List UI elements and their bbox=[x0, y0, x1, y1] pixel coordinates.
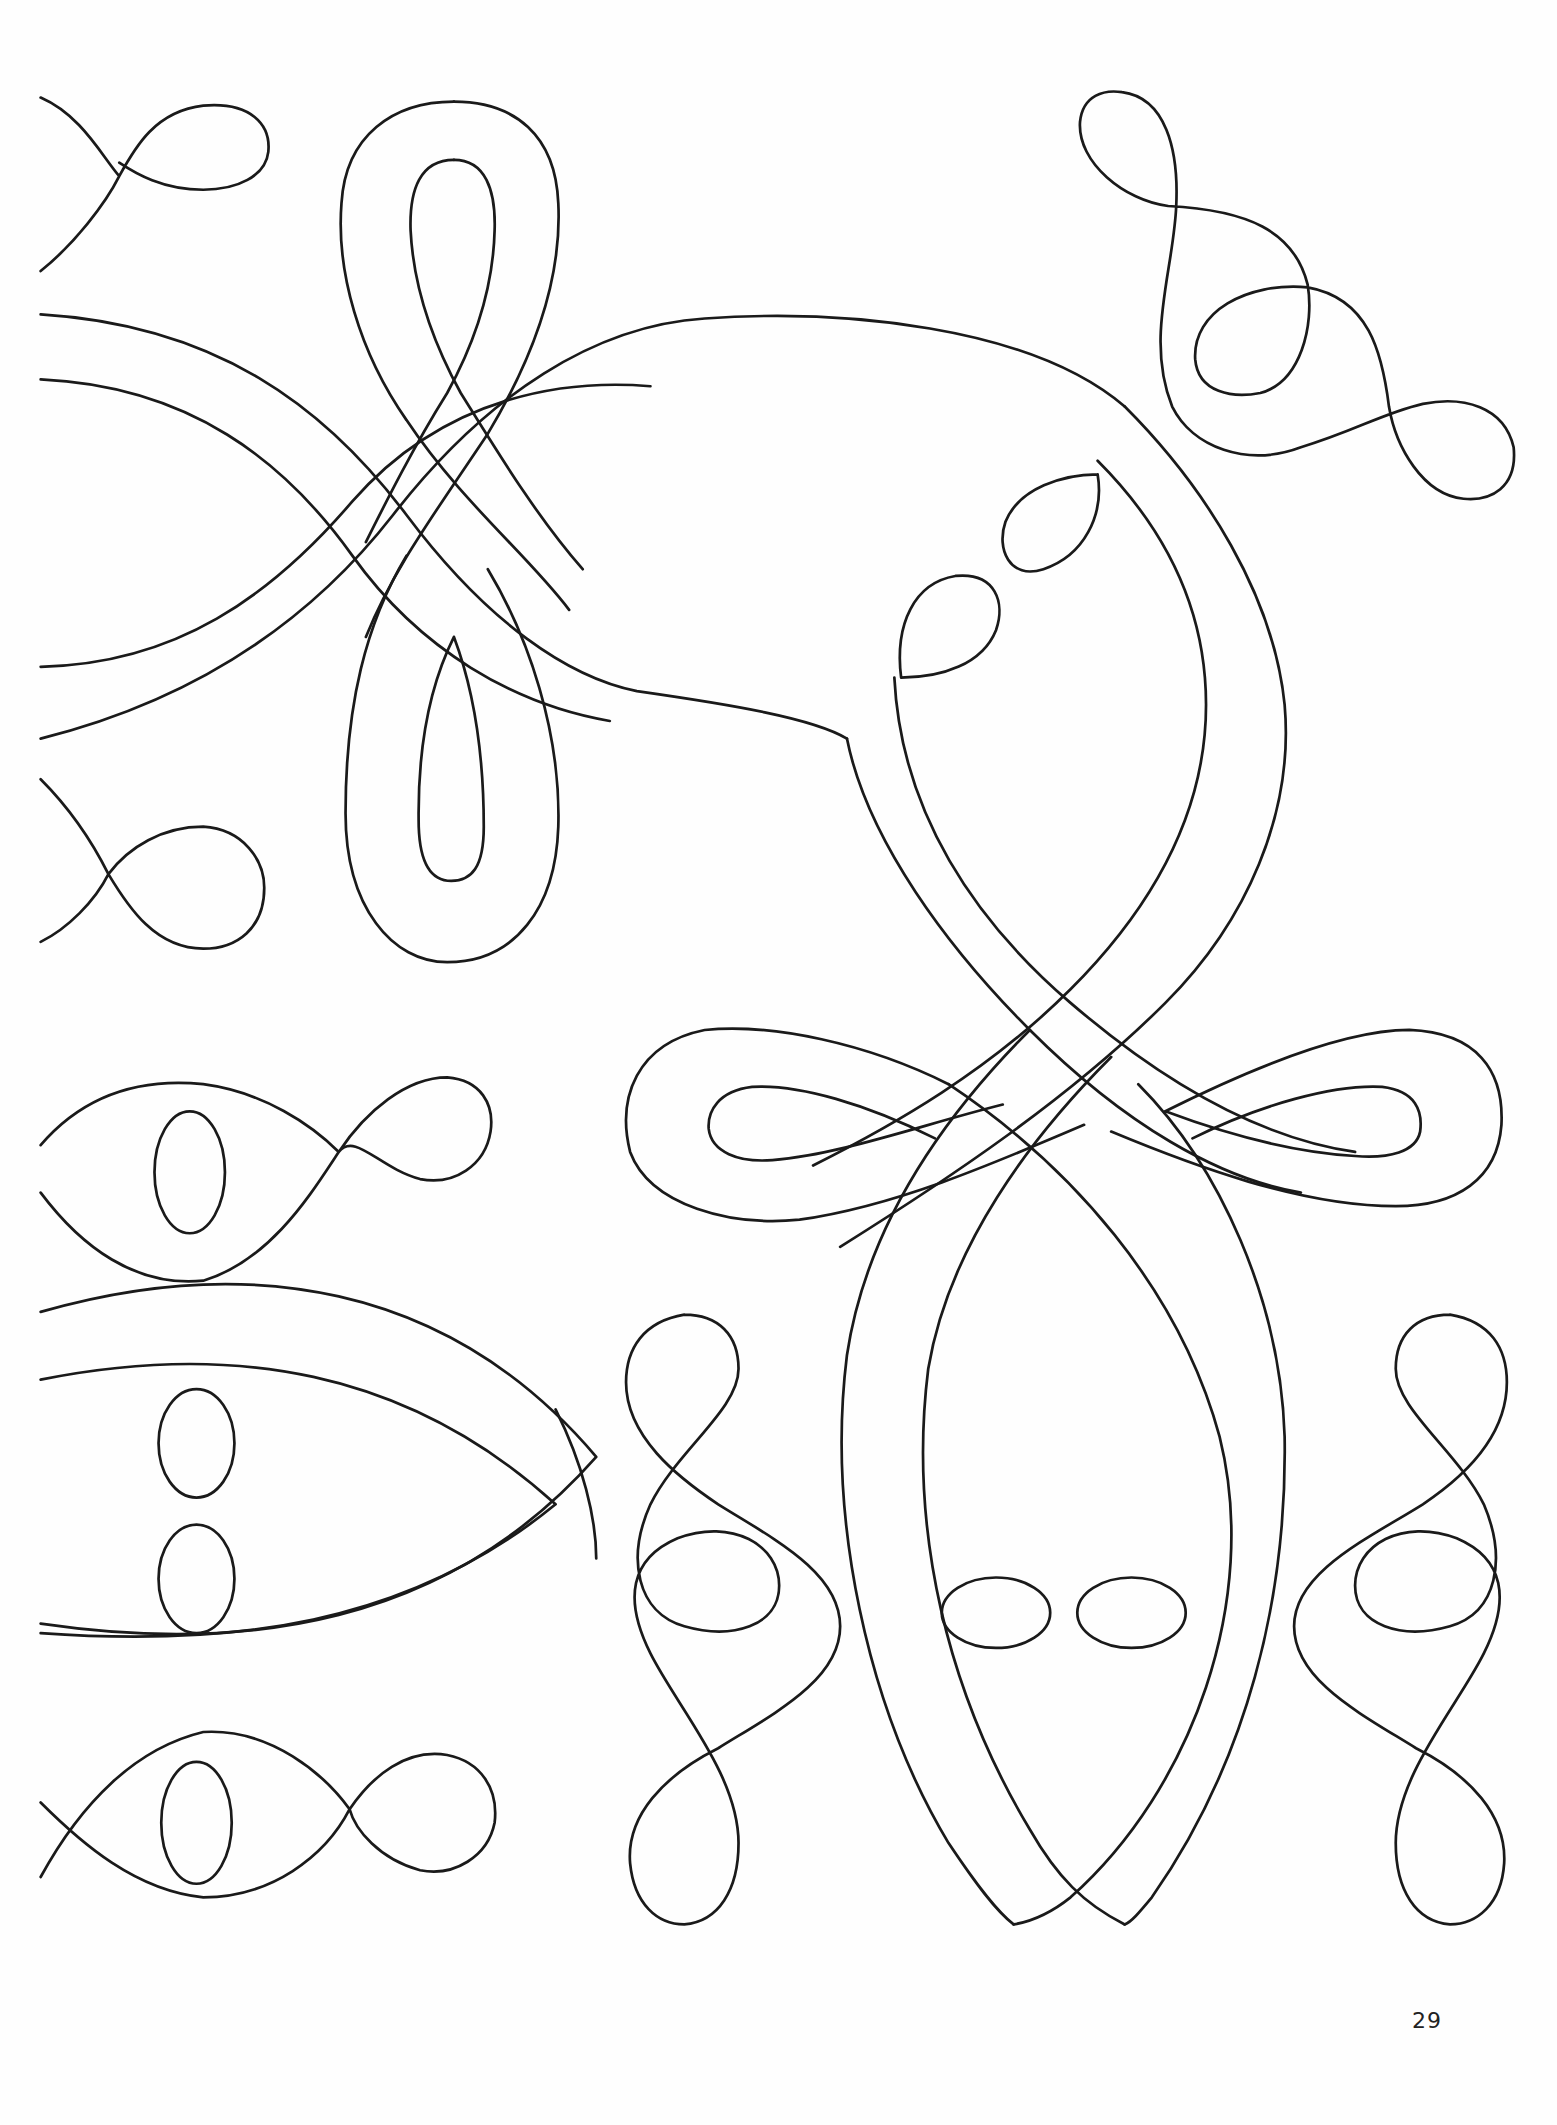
bottom-left-loops bbox=[41, 1732, 496, 1898]
ribbon-small-loop-2 bbox=[1003, 474, 1099, 571]
page-number: 29 bbox=[1412, 2008, 1442, 2033]
center-bottom-loop-left bbox=[942, 1577, 1050, 1647]
mid-left-loop-outer bbox=[626, 1029, 1084, 1221]
top-left-loop bbox=[41, 98, 269, 271]
top-ribbon-loop-inner-right bbox=[366, 160, 495, 542]
bottom-mid-left-figure-eight bbox=[626, 1315, 840, 1925]
left-wedge-loop-bottom bbox=[159, 1525, 235, 1633]
left-mid-loop-oval bbox=[154, 1111, 224, 1233]
left-arc-inner bbox=[41, 379, 610, 721]
left-wedge-inner bbox=[41, 1364, 597, 1637]
left-wedge-outer bbox=[41, 1284, 597, 1634]
left-arc-lower-outer bbox=[41, 316, 1125, 739]
top-ribbon-loop-outer-right bbox=[366, 102, 559, 637]
left-arc-outer bbox=[41, 314, 847, 738]
lower-ribbon-left-inner bbox=[923, 1057, 1125, 1924]
left-lower-loop bbox=[41, 779, 265, 948]
coloring-page: 29 bbox=[0, 0, 1557, 2125]
lower-ribbon-right-inner bbox=[1125, 1084, 1285, 1924]
lower-ribbon-right-outer bbox=[949, 1084, 1232, 1924]
left-mid-loops bbox=[41, 1077, 492, 1281]
center-bottom-loop-right bbox=[1077, 1577, 1185, 1647]
mid-left-loop-inner bbox=[709, 1087, 1003, 1161]
ribbon-small-loop-1 bbox=[900, 576, 1000, 678]
left-arc-lower-inner bbox=[41, 385, 651, 667]
lower-ribbon-left-outer bbox=[842, 1030, 1030, 1924]
top-right-loops bbox=[1080, 92, 1514, 500]
left-wedge-loop-top bbox=[159, 1389, 235, 1497]
mid-ribbon-loop-inner bbox=[419, 637, 484, 881]
bottom-right-figure-eight bbox=[1294, 1315, 1507, 1925]
bottom-left-loop-oval bbox=[161, 1762, 231, 1884]
top-ribbon-loop-outer bbox=[341, 102, 569, 610]
mid-ribbon-loop-outer bbox=[346, 556, 559, 963]
ornamental-line-art bbox=[0, 0, 1557, 2125]
